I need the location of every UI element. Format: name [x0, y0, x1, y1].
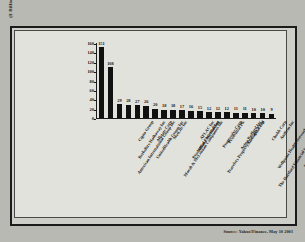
bar-item: 29: [115, 43, 124, 118]
bar-value-label: 9: [270, 108, 272, 112]
bar: [152, 109, 158, 118]
bar: [215, 112, 221, 118]
bar-item: 12: [204, 43, 213, 118]
bar: [188, 111, 194, 119]
bar: [179, 110, 185, 118]
bar: [143, 106, 149, 118]
bar-value-label: 12: [216, 107, 220, 111]
y-tick-mark: [94, 82, 96, 83]
bar: [269, 114, 275, 118]
bar-item: 10: [258, 43, 267, 118]
bar-value-label: 17: [180, 105, 184, 109]
chart-page: ($ Billions) 020406080100120140160 15110…: [0, 0, 305, 242]
bar-value-label: 16: [189, 105, 193, 109]
bar-value-label: 26: [144, 100, 148, 104]
bar: [117, 104, 123, 118]
bar-value-label: 29: [117, 99, 121, 103]
bar-item: 15: [195, 43, 204, 118]
bar: [206, 112, 212, 118]
bar-value-label: 20: [153, 103, 157, 107]
bar-item: 18: [160, 43, 169, 118]
bar-value-label: 12: [207, 107, 211, 111]
bar-item: 12: [213, 43, 222, 118]
bar-item: 151: [97, 43, 106, 118]
bar: [242, 113, 248, 118]
bar-value-label: 11: [243, 107, 247, 111]
bar-value-label: 108: [107, 62, 114, 66]
bar-value-label: 15: [198, 106, 202, 110]
bar-item: 16: [187, 43, 196, 118]
bar-item: 28: [124, 43, 133, 118]
bar: [99, 47, 105, 118]
bar-item: 12: [222, 43, 231, 118]
bar-value-label: 151: [98, 42, 105, 46]
y-tick-mark: [94, 119, 96, 120]
bar-item: 26: [142, 43, 151, 118]
bar: [233, 113, 239, 118]
bar-item: 11: [240, 43, 249, 118]
bar-item: 108: [106, 43, 115, 118]
x-axis-line: [96, 118, 276, 119]
y-tick-mark: [94, 100, 96, 101]
bar-value-label: 11: [234, 107, 238, 111]
bar: [197, 111, 203, 118]
bar-series: 1511082928272620181817161512121211111010…: [97, 43, 276, 118]
bar-value-label: 18: [162, 104, 166, 108]
x-axis-labels: American International Group IncBerkshir…: [97, 120, 277, 190]
source-note: Source: Yahoo!Finance, May 10 2003: [223, 229, 293, 234]
bar: [108, 67, 114, 118]
y-tick-mark: [94, 63, 96, 64]
y-tick-mark: [94, 72, 96, 73]
y-tick-mark: [94, 53, 96, 54]
bar: [126, 105, 132, 118]
bar-item: 20: [151, 43, 160, 118]
y-tick-mark: [94, 44, 96, 45]
bar-value-label: 10: [251, 108, 255, 112]
bar: [251, 113, 257, 118]
bar-value-label: 18: [171, 104, 175, 108]
bar: [161, 110, 167, 118]
bar-item: 10: [249, 43, 258, 118]
bar-item: 17: [178, 43, 187, 118]
bar-value-label: 12: [225, 107, 229, 111]
bar: [170, 110, 176, 118]
bar-item: 11: [231, 43, 240, 118]
bar: [224, 112, 230, 118]
bar: [260, 113, 266, 118]
bar-item: 9: [267, 43, 276, 118]
bar-value-label: 10: [260, 108, 264, 112]
bar-value-label: 28: [126, 99, 130, 103]
y-tick-mark: [94, 110, 96, 111]
bar-item: 18: [169, 43, 178, 118]
y-tick-mark: [94, 91, 96, 92]
bar-item: 27: [133, 43, 142, 118]
y-axis-title: ($ Billions): [8, 0, 20, 40]
bar: [135, 105, 141, 118]
bar-value-label: 27: [135, 100, 139, 104]
plot-area: 020406080100120140160 151108292827262018…: [96, 43, 276, 119]
